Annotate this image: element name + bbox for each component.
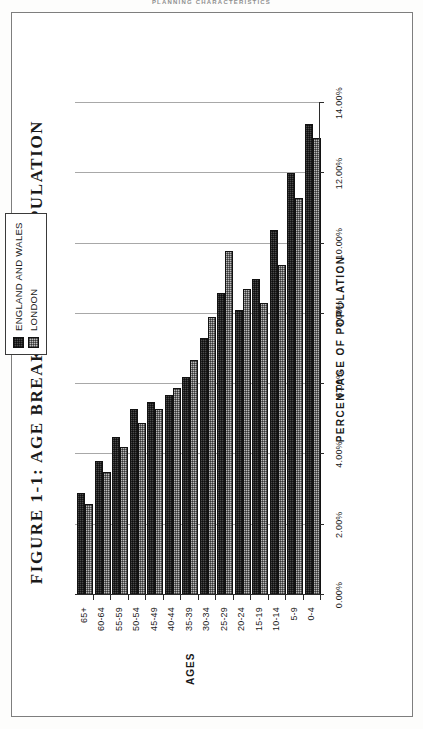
bar-ew-35-39 (182, 377, 190, 595)
category-tick (320, 595, 321, 600)
category-tick (268, 595, 269, 600)
bar-ld-15-19 (260, 303, 268, 595)
bar-ld-60-64 (103, 472, 111, 595)
bar-ld-50-54 (138, 423, 146, 595)
bar-ew-45-49 (147, 402, 155, 595)
value-tick (319, 243, 324, 244)
bar-ld-35-39 (190, 360, 198, 595)
value-tick (319, 102, 324, 103)
category-label: 55-59 (114, 607, 124, 631)
chart-legend: ENGLAND AND WALES LONDON (5, 213, 47, 355)
gridline (75, 172, 320, 173)
value-tick (319, 453, 324, 454)
category-axis-line (319, 103, 320, 595)
category-tick (233, 595, 234, 600)
category-label: 5-9 (289, 607, 299, 621)
category-tick (250, 595, 251, 600)
plot-area: 14.00%12.00%10.00%8.00%6.00%4.00%2.00%0.… (75, 103, 320, 595)
rotated-chart-canvas: FIGURE 1-1: AGE BREAKDOWN OF POPULATION … (13, 13, 411, 691)
category-label: 35-39 (184, 607, 194, 631)
category-tick (303, 595, 304, 600)
category-tick (110, 595, 111, 600)
value-tick (319, 383, 324, 384)
bar-ld-55-59 (120, 447, 128, 595)
category-tick (180, 595, 181, 600)
gridline (75, 243, 320, 244)
bar-ld-30-34 (208, 317, 216, 595)
value-tick (319, 313, 324, 314)
bar-ew-40-44 (165, 395, 173, 595)
category-label: 65+ (79, 607, 89, 623)
bar-ew-0-4 (305, 124, 313, 595)
value-tick (319, 524, 324, 525)
category-tick (163, 595, 164, 600)
bar-ld-40-44 (173, 388, 181, 595)
bar-ld-45-49 (155, 409, 163, 595)
category-tick (198, 595, 199, 600)
page-running-header: PLANNING CHARACTERISTICS (0, 0, 423, 5)
bar-ld-25-29 (225, 251, 233, 595)
legend-item-london: LONDON (26, 222, 41, 348)
category-label: 20-24 (236, 607, 246, 631)
category-label: 45-49 (149, 607, 159, 631)
category-tick (145, 595, 146, 600)
plot-inner (75, 103, 320, 595)
category-label: 10-14 (271, 607, 281, 631)
category-label: 15-19 (254, 607, 264, 631)
category-label: 60-64 (96, 607, 106, 631)
bar-ew-30-34 (200, 338, 208, 595)
bar-ew-5-9 (287, 173, 295, 595)
category-tick (128, 595, 129, 600)
bar-ew-65+ (77, 493, 85, 595)
bar-ew-20-24 (235, 310, 243, 595)
category-tick (215, 595, 216, 600)
legend-item-england-and-wales: ENGLAND AND WALES (11, 222, 26, 348)
legend-swatch-icon-england-and-wales (13, 337, 24, 348)
bar-ew-25-29 (217, 293, 225, 595)
gridline (75, 102, 320, 103)
bar-ld-20-24 (243, 289, 251, 595)
category-label: 30-34 (201, 607, 211, 631)
bar-ew-15-19 (252, 279, 260, 595)
bar-ld-10-14 (278, 265, 286, 595)
category-tick (285, 595, 286, 600)
category-tick (93, 595, 94, 600)
legend-swatch-icon-london (28, 337, 39, 348)
value-axis-title: PERCENTAGE OF POPULATION (335, 103, 346, 595)
scanned-page: PLANNING CHARACTERISTICS FIGURE 1-1: AGE… (0, 0, 423, 729)
category-label: 50-54 (131, 607, 141, 631)
category-label: 40-44 (166, 607, 176, 631)
bar-ew-10-14 (270, 230, 278, 595)
bar-ew-50-54 (130, 409, 138, 595)
bar-ew-55-59 (112, 437, 120, 595)
category-axis-title: AGES (185, 653, 196, 685)
value-tick (319, 172, 324, 173)
legend-label-london: LONDON (28, 289, 39, 331)
category-label: 0-4 (306, 607, 316, 621)
bar-ld-65+ (85, 504, 93, 595)
bar-ld-5-9 (295, 198, 303, 595)
bar-ew-60-64 (95, 461, 103, 595)
category-label: 25-29 (219, 607, 229, 631)
figure-frame: FIGURE 1-1: AGE BREAKDOWN OF POPULATION … (11, 12, 413, 717)
legend-label-england-and-wales: ENGLAND AND WALES (13, 222, 24, 331)
